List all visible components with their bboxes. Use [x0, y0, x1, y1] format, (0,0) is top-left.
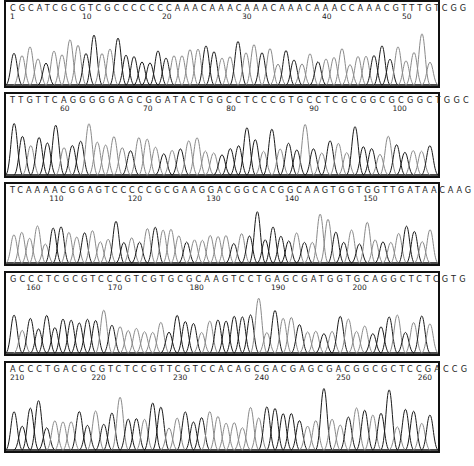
trace-panel-3: TCAAAACGGAGTCCCCCGCGAAGGACGGCACGGCAAGTGG…	[4, 182, 440, 266]
position-label: 120	[128, 194, 142, 203]
peak-trace	[6, 385, 438, 451]
position-label: 140	[285, 194, 299, 203]
position-label: 10	[82, 12, 92, 21]
position-ticks: 60708090100	[6, 104, 438, 114]
position-label: 80	[226, 104, 236, 113]
position-label: 30	[242, 12, 252, 21]
position-label: 70	[143, 104, 153, 113]
position-label: 60	[60, 104, 70, 113]
peak-trace	[6, 116, 438, 176]
position-ticks: 110120130140150	[6, 194, 438, 204]
position-label: 250	[336, 373, 350, 382]
position-label: 90	[309, 104, 319, 113]
peak-trace	[6, 206, 438, 264]
position-label: 200	[352, 283, 366, 292]
position-ticks: 210220230240250260	[6, 373, 438, 383]
peak-trace	[6, 295, 438, 354]
position-label: 260	[418, 373, 432, 382]
position-label: 1	[10, 12, 15, 21]
trace-panel-2: TTGTTCAGGGGGAGCGGATACTGGCCTCCCGTGCCTCGCG…	[4, 92, 440, 178]
position-label: 190	[271, 283, 285, 292]
position-label: 170	[108, 283, 122, 292]
position-label: 180	[189, 283, 203, 292]
position-label: 230	[173, 373, 187, 382]
position-ticks: 160170180190200	[6, 283, 438, 293]
position-label: 220	[92, 373, 106, 382]
position-label: 160	[26, 283, 40, 292]
position-label: 50	[402, 12, 412, 21]
position-label: 110	[49, 194, 63, 203]
position-ticks: 11020304050	[6, 12, 438, 22]
trace-panel-1: CGCATCGCGTCGCCCCCCCAAACAAACAAACAAACAAACC…	[4, 0, 440, 88]
peak-trace	[6, 24, 438, 86]
position-label: 150	[363, 194, 377, 203]
position-label: 100	[392, 104, 406, 113]
trace-panel-4: GCCCTCGCGTCCCGTCGTGCGCAAGTCCTGAGCGATGGTG…	[4, 271, 440, 356]
trace-panel-5: ACCCTGACGCGTCTCCGTTCGTCCACAGCGACGAGCGACG…	[4, 361, 440, 453]
position-label: 210	[10, 373, 24, 382]
position-label: 240	[255, 373, 269, 382]
position-label: 130	[206, 194, 220, 203]
position-label: 20	[162, 12, 172, 21]
position-label: 40	[322, 12, 332, 21]
